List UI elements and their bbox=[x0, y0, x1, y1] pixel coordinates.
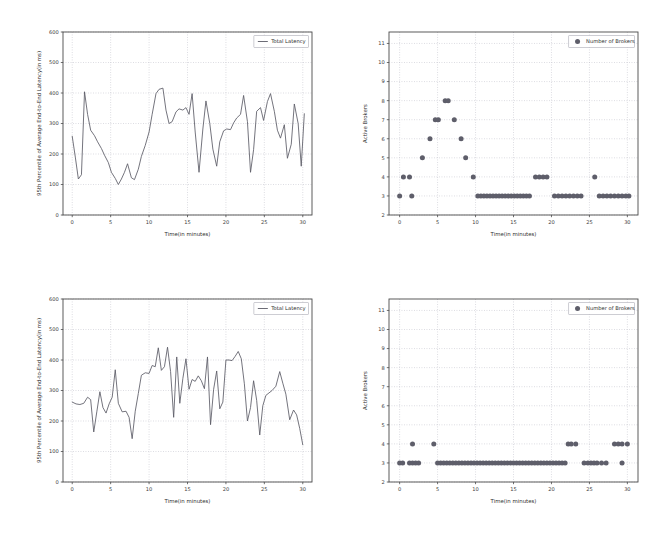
y-axis-title: Active Brokers bbox=[362, 104, 368, 143]
x-tick-label: 20 bbox=[223, 487, 229, 493]
legend-bottom-right-brokers[interactable]: Number of Brokers bbox=[569, 303, 636, 315]
y-tick-label: 10 bbox=[378, 327, 384, 333]
series-line-top-left-latency bbox=[72, 88, 304, 184]
y-tick-label: 200 bbox=[49, 419, 59, 425]
y-tick-label: 11 bbox=[378, 41, 384, 47]
y-tick-label: 100 bbox=[49, 449, 59, 455]
legend-bottom-left-latency[interactable]: Total Latency bbox=[254, 303, 309, 315]
x-tick-label: 25 bbox=[586, 220, 592, 226]
x-tick-label: 15 bbox=[510, 487, 516, 493]
y-tick-label: 400 bbox=[49, 358, 59, 364]
y-axis-title: 95th Percentile of Average End-to-End La… bbox=[36, 318, 43, 463]
scatter-point bbox=[416, 460, 421, 465]
y-tick-label: 4 bbox=[382, 175, 385, 181]
x-tick-label: 20 bbox=[548, 220, 554, 226]
x-axis-title: Time(in minutes) bbox=[164, 498, 211, 504]
scatter-point bbox=[427, 136, 432, 141]
x-tick-label: 30 bbox=[300, 487, 306, 493]
scatter-points-top-right-brokers bbox=[397, 98, 631, 198]
x-tick-label: 0 bbox=[71, 220, 74, 226]
x-tick-label: 15 bbox=[184, 220, 190, 226]
x-tick-label: 25 bbox=[261, 220, 267, 226]
scatter-point bbox=[573, 441, 578, 446]
y-tick-label: 0 bbox=[56, 480, 59, 486]
scatter-point bbox=[604, 460, 609, 465]
scatter-point bbox=[401, 174, 406, 179]
y-tick-label: 10 bbox=[378, 60, 384, 66]
x-tick-label: 20 bbox=[223, 220, 229, 226]
scatter-point bbox=[436, 117, 441, 122]
x-tick-label: 10 bbox=[472, 487, 478, 493]
x-axis-title: Time(in minutes) bbox=[490, 498, 537, 504]
y-tick-label: 300 bbox=[49, 121, 59, 127]
legend-dot-swatch-icon bbox=[575, 39, 580, 44]
legend-label: Number of Brokers bbox=[586, 305, 635, 311]
x-tick-label: 30 bbox=[624, 487, 630, 493]
y-tick-label: 0 bbox=[56, 213, 59, 219]
scatter-point bbox=[407, 174, 412, 179]
x-tick-label: 30 bbox=[300, 220, 306, 226]
y-tick-label: 100 bbox=[49, 182, 59, 188]
scatter-point bbox=[463, 155, 468, 160]
scatter-point bbox=[569, 441, 574, 446]
chart-panel-bottom-left-latency: 0510152025300100200300400500600Time(in m… bbox=[0, 267, 326, 534]
scatter-point bbox=[400, 460, 405, 465]
y-tick-label: 5 bbox=[382, 156, 385, 162]
grid-lines bbox=[63, 32, 312, 215]
grid-lines bbox=[63, 299, 312, 482]
chart-panel-top-left-latency: 0510152025300100200300400500600Time(in m… bbox=[0, 0, 326, 267]
y-tick-label: 7 bbox=[382, 385, 385, 391]
scatter-point bbox=[527, 193, 532, 198]
legend-dot-swatch-icon bbox=[575, 306, 580, 311]
scatter-point bbox=[410, 441, 415, 446]
tick-labels: 0510152025300100200300400500600 bbox=[49, 297, 306, 493]
x-axis-title: Time(in minutes) bbox=[490, 231, 537, 237]
x-tick-label: 20 bbox=[548, 487, 554, 493]
scatter-point bbox=[595, 460, 600, 465]
grid-lines bbox=[389, 32, 638, 215]
scatter-point bbox=[625, 441, 630, 446]
scatter-point bbox=[592, 174, 597, 179]
y-tick-label: 200 bbox=[49, 152, 59, 158]
y-tick-label: 11 bbox=[378, 308, 384, 314]
scatter-point bbox=[544, 174, 549, 179]
y-tick-label: 600 bbox=[49, 297, 59, 303]
scatter-point bbox=[626, 193, 631, 198]
x-tick-label: 30 bbox=[624, 220, 630, 226]
legend-top-left-latency[interactable]: Total Latency bbox=[254, 36, 309, 48]
figure-grid: 0510152025300100200300400500600Time(in m… bbox=[0, 0, 652, 534]
y-tick-label: 9 bbox=[382, 346, 385, 352]
y-tick-label: 8 bbox=[382, 366, 385, 372]
y-tick-label: 8 bbox=[382, 99, 385, 105]
tick-labels: 0510152025300100200300400500600 bbox=[49, 30, 306, 226]
x-tick-label: 25 bbox=[586, 487, 592, 493]
scatter-point bbox=[459, 136, 464, 141]
x-tick-label: 10 bbox=[146, 220, 152, 226]
x-tick-label: 0 bbox=[398, 220, 401, 226]
x-tick-label: 10 bbox=[472, 220, 478, 226]
legend-label: Number of Brokers bbox=[586, 38, 635, 44]
y-tick-label: 6 bbox=[382, 404, 385, 410]
scatter-points-bottom-right-brokers bbox=[397, 441, 630, 465]
y-tick-label: 3 bbox=[382, 461, 385, 467]
x-tick-label: 25 bbox=[261, 487, 267, 493]
x-tick-label: 15 bbox=[510, 220, 516, 226]
y-tick-label: 4 bbox=[382, 442, 385, 448]
x-tick-label: 10 bbox=[146, 487, 152, 493]
scatter-point bbox=[471, 174, 476, 179]
chart-panel-bottom-right-brokers: 051015202530234567891011Time(in minutes)… bbox=[326, 267, 652, 534]
x-axis-title: Time(in minutes) bbox=[164, 231, 211, 237]
legend-top-right-brokers[interactable]: Number of Brokers bbox=[569, 36, 636, 48]
x-tick-label: 5 bbox=[109, 220, 112, 226]
scatter-point bbox=[563, 460, 568, 465]
scatter-point bbox=[420, 155, 425, 160]
legend-label: Total Latency bbox=[270, 305, 305, 312]
x-tick-label: 0 bbox=[71, 487, 74, 493]
y-tick-label: 5 bbox=[382, 423, 385, 429]
y-tick-label: 7 bbox=[382, 118, 385, 124]
scatter-point bbox=[452, 117, 457, 122]
y-tick-label: 6 bbox=[382, 137, 385, 143]
x-tick-label: 0 bbox=[398, 487, 401, 493]
x-tick-label: 5 bbox=[109, 487, 112, 493]
y-tick-label: 2 bbox=[382, 213, 385, 219]
